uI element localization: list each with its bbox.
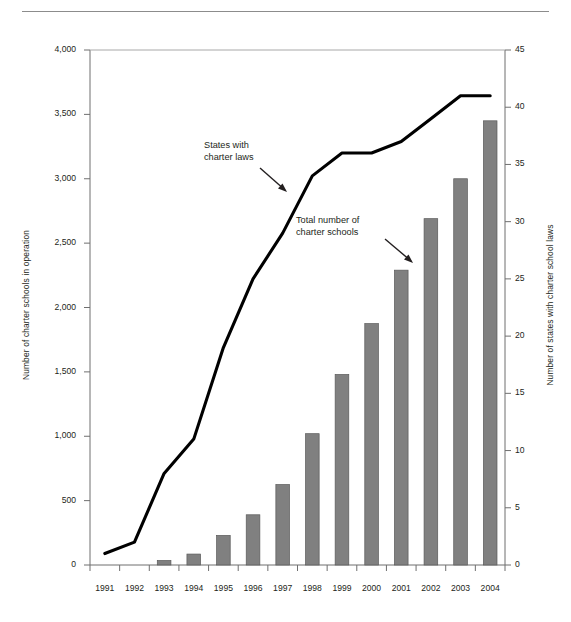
bar-1994 [187, 554, 201, 565]
bar-1993 [157, 560, 171, 565]
bar-1996 [246, 515, 260, 565]
y-axis-right-ticks [505, 50, 511, 565]
bar-2000 [365, 324, 379, 565]
y-axis-right-tick-label: 10 [515, 445, 561, 455]
bar-2003 [454, 179, 468, 565]
y-axis-left-tick-label: 3,500 [30, 108, 76, 118]
y-axis-left-tick-label: 1,500 [30, 366, 76, 376]
plot-canvas [0, 0, 571, 622]
bar-1995 [217, 535, 231, 565]
y-axis-left-tick-label: 3,000 [30, 173, 76, 183]
bar-1999 [335, 374, 349, 565]
y-axis-right-tick-label: 45 [515, 44, 561, 54]
y-axis-right-tick-label: 0 [515, 559, 561, 569]
y-axis-right-tick-label: 25 [515, 273, 561, 283]
y-axis-right-tick-label: 40 [515, 101, 561, 111]
bar-1997 [276, 485, 290, 565]
y-axis-left-tick-label: 4,000 [30, 44, 76, 54]
chart-figure: Number of charter schools in operation N… [0, 0, 571, 622]
y-axis-right-tick-label: 35 [515, 158, 561, 168]
y-axis-right-tick-label: 20 [515, 330, 561, 340]
y-axis-right-tick-label: 5 [515, 502, 561, 512]
bar-1998 [306, 434, 320, 565]
y-axis-left-tick-label: 1,000 [30, 430, 76, 440]
bar-series [157, 121, 497, 565]
y-axis-left-ticks [84, 50, 90, 565]
y-axis-left-tick-label: 2,500 [30, 237, 76, 247]
bar-2004 [483, 121, 497, 565]
annotation-arrows [260, 168, 413, 263]
x-axis-tick-label: 2004 [470, 583, 510, 593]
y-axis-left-tick-label: 0 [30, 559, 76, 569]
axis-lines [90, 50, 505, 565]
bar-2002 [424, 219, 438, 565]
x-axis-ticks [90, 565, 505, 571]
y-axis-left-tick-label: 2,000 [30, 302, 76, 312]
y-axis-left-tick-label: 500 [30, 495, 76, 505]
bar-2001 [394, 270, 408, 565]
y-axis-right-tick-label: 30 [515, 216, 561, 226]
y-axis-right-tick-label: 15 [515, 387, 561, 397]
